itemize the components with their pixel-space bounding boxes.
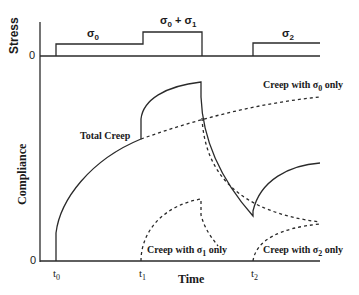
stress-label-sigma0: σ0: [87, 28, 99, 39]
stress-zero-label: 0: [29, 50, 35, 61]
time-axis-label: Time: [178, 273, 204, 285]
sigma1-only-label: Creep with σ1 only: [147, 245, 227, 255]
total-creep-label: Total Creep: [80, 131, 130, 141]
tick-t0: t0: [53, 268, 60, 279]
sigma0-only-label: Creep with σ0 only: [263, 80, 343, 90]
stress-axis-label: Stress: [8, 17, 20, 54]
stress-label-sigma0-plus-sigma1: σ0 + σ1: [160, 15, 197, 26]
stress-step-sigma0-sigma1: [56, 32, 202, 56]
sigma0-only-curve: [141, 97, 320, 139]
total-creep-curve: [56, 82, 320, 261]
sigma2-only-label: Creep with σ2 only: [263, 245, 343, 255]
compliance-zero-label: 0: [30, 255, 36, 266]
compliance-axis-label: Compliance: [16, 144, 28, 205]
tick-t1: t1: [139, 268, 146, 279]
sigma2-only-curve: [253, 224, 320, 261]
recovery-dashed-curve: [202, 118, 320, 222]
stress-step-sigma2: [253, 43, 320, 56]
stress-label-sigma2: σ2: [282, 28, 294, 39]
tick-t2: t2: [251, 268, 258, 279]
